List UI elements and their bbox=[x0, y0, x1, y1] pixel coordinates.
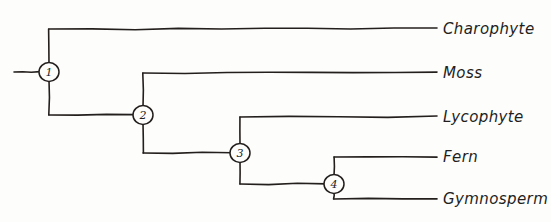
tip-branch-horizontal-tip-charophyte bbox=[49, 28, 437, 30]
node-number-3: 3 bbox=[237, 147, 244, 160]
tip-label-moss: Moss bbox=[443, 64, 482, 82]
internal-branch-horizontal-node-3-node-4 bbox=[240, 183, 326, 184]
tree-branch-group bbox=[14, 28, 437, 199]
tip-label-fern: Fern bbox=[443, 148, 478, 166]
tip-label-gymnosperm: Gymnosperm bbox=[443, 190, 548, 208]
node-number-4: 4 bbox=[330, 178, 338, 191]
tip-branch-horizontal-tip-gymnosperm bbox=[334, 198, 437, 199]
root-branch bbox=[14, 72, 40, 73]
internal-branch-vertical-node-1-node-2 bbox=[49, 80, 50, 115]
phylogenetic-tree-diagram: 1234 Charophyte Moss Lycophyte Fern Gymn… bbox=[0, 0, 551, 222]
node-number-2: 2 bbox=[139, 109, 147, 122]
tip-branch-horizontal-tip-lycophyte bbox=[240, 116, 437, 117]
internal-branch-horizontal-node-1-node-2 bbox=[49, 114, 135, 115]
tip-label-lycophyte: Lycophyte bbox=[443, 108, 524, 126]
node-number-1: 1 bbox=[46, 66, 53, 79]
internal-branch-horizontal-node-2-node-3 bbox=[143, 152, 232, 153]
tip-branch-horizontal-tip-moss bbox=[143, 72, 437, 73]
tip-branch-vertical-tip-moss bbox=[143, 73, 144, 107]
tree-node-group: 1234 bbox=[39, 63, 344, 194]
tip-label-charophyte: Charophyte bbox=[443, 20, 535, 38]
